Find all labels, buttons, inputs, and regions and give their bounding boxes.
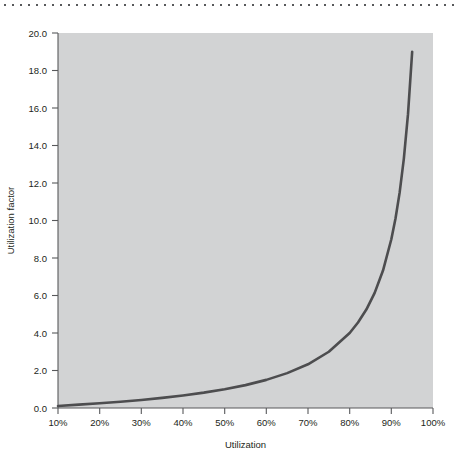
y-tick-label-7: 14.0	[29, 140, 48, 151]
y-axis-ticks	[52, 33, 58, 408]
x-tick-label-0: 10%	[48, 417, 68, 428]
y-tick-label-6: 12.0	[29, 178, 48, 189]
x-tick-label-7: 80%	[340, 417, 360, 428]
x-tick-label-2: 30%	[132, 417, 152, 428]
x-axis-ticks	[58, 408, 433, 414]
x-tick-label-9: 100%	[421, 417, 446, 428]
x-tick-label-8: 90%	[382, 417, 402, 428]
plot-area-background	[58, 33, 433, 408]
y-tick-label-2: 4.0	[34, 328, 47, 339]
chart-svg: 0.0 2.0 4.0 6.0 8.0 10.0 12.0 14.0 16.0 …	[0, 14, 459, 454]
top-dotted-rule	[0, 3, 459, 7]
y-tick-label-9: 18.0	[29, 65, 48, 76]
y-axis-title: Utilization factor	[5, 187, 16, 255]
y-tick-label-0: 0.0	[34, 403, 47, 414]
x-tick-label-1: 20%	[90, 417, 110, 428]
x-tick-label-4: 50%	[215, 417, 235, 428]
y-tick-label-10: 20.0	[29, 28, 48, 39]
utilization-factor-chart: 0.0 2.0 4.0 6.0 8.0 10.0 12.0 14.0 16.0 …	[0, 14, 459, 454]
y-tick-label-4: 8.0	[34, 253, 47, 264]
x-tick-label-6: 70%	[298, 417, 318, 428]
y-tick-label-3: 6.0	[34, 290, 47, 301]
chart-page: 0.0 2.0 4.0 6.0 8.0 10.0 12.0 14.0 16.0 …	[0, 0, 459, 454]
y-tick-label-5: 10.0	[29, 215, 48, 226]
x-axis-title: Utilization	[225, 439, 266, 450]
x-tick-label-3: 40%	[173, 417, 193, 428]
y-tick-label-1: 2.0	[34, 365, 47, 376]
y-tick-label-8: 16.0	[29, 103, 48, 114]
x-tick-label-5: 60%	[257, 417, 277, 428]
